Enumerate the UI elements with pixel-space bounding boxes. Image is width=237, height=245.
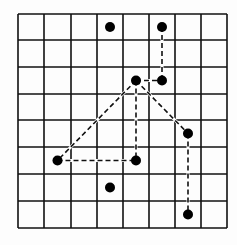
node-dot bbox=[183, 210, 193, 220]
node-dot bbox=[183, 129, 193, 139]
node-dot bbox=[53, 156, 63, 166]
node-dot bbox=[105, 183, 115, 193]
node-dot bbox=[131, 156, 141, 166]
node-dot bbox=[131, 76, 141, 86]
node-dot bbox=[157, 76, 167, 86]
grid-graph-diagram bbox=[0, 0, 237, 245]
node-dot bbox=[157, 22, 167, 32]
grid-lines bbox=[18, 14, 227, 228]
node-dot bbox=[105, 22, 115, 32]
diagram-canvas bbox=[0, 0, 237, 245]
